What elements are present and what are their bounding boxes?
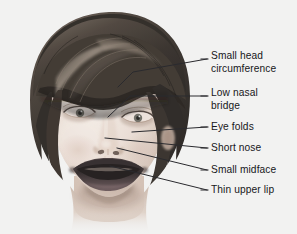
callout-label-eye-folds: Eye folds <box>211 121 254 134</box>
callout-label-small-head-circumference: Small head circumference <box>211 50 276 75</box>
callout-labels: Small head circumferenceLow nasal bridge… <box>0 0 297 234</box>
callout-label-short-nose: Short nose <box>211 142 261 155</box>
callout-label-thin-upper-lip: Thin upper lip <box>211 184 274 197</box>
callout-label-small-midface: Small midface <box>211 164 276 177</box>
figure-root: Small head circumferenceLow nasal bridge… <box>0 0 297 234</box>
callout-label-low-nasal-bridge: Low nasal bridge <box>211 87 258 112</box>
